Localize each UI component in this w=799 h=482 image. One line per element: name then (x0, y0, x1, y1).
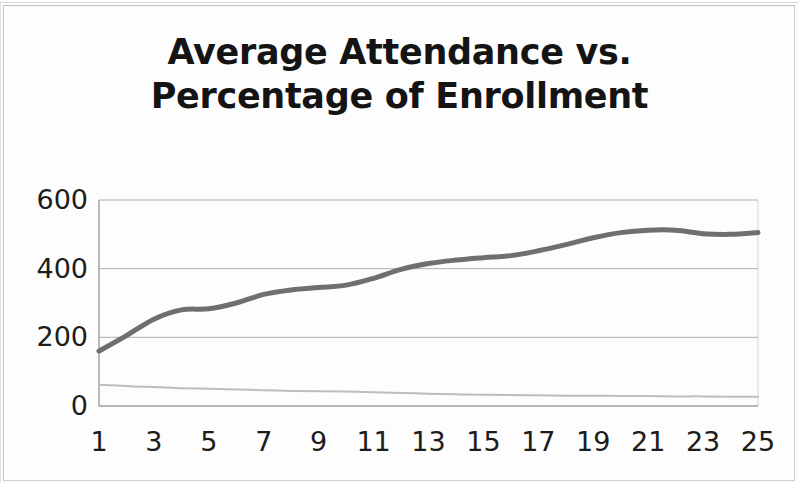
x-tick-label-17: 17 (510, 428, 566, 455)
x-tick-label-7: 7 (236, 428, 292, 455)
x-tick-label-3: 3 (126, 428, 182, 455)
series-line-2 (99, 385, 758, 397)
chart-plot-area: 6004002000 135791113151719212325 (0, 0, 799, 482)
series-line-1 (99, 230, 758, 351)
chart-series-layer (99, 230, 758, 397)
x-tick-label-13: 13 (401, 428, 457, 455)
x-tick-label-5: 5 (181, 428, 237, 455)
x-tick-label-11: 11 (346, 428, 402, 455)
x-tick-label-9: 9 (291, 428, 347, 455)
y-tick-label-0: 0 (8, 392, 88, 419)
y-tick-label-600: 600 (8, 186, 88, 213)
x-tick-label-23: 23 (675, 428, 731, 455)
y-tick-label-200: 200 (8, 323, 88, 350)
y-axis-tick-labels: 6004002000 (0, 0, 88, 482)
x-tick-label-25: 25 (730, 428, 786, 455)
y-tick-label-400: 400 (8, 255, 88, 282)
x-tick-label-15: 15 (455, 428, 511, 455)
scanned-chart-page: Average Attendance vs. Percentage of Enr… (0, 0, 799, 482)
x-tick-label-1: 1 (71, 428, 127, 455)
x-tick-label-19: 19 (565, 428, 621, 455)
x-tick-label-21: 21 (620, 428, 676, 455)
chart-svg (0, 0, 799, 482)
